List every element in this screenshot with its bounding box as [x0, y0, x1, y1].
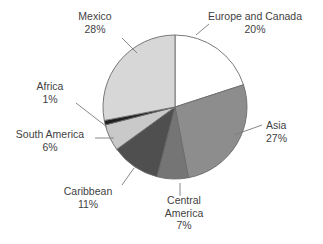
slice-label-south-america-name: South America — [8, 128, 92, 141]
slice-label-asia: Asia 27% — [266, 119, 310, 144]
slice-label-mexico: Mexico 28% — [62, 10, 128, 35]
pie-chart: Mexico 28% Europe and Canada 20% Asia 27… — [0, 0, 323, 244]
slice-label-europe-and-canada-name: Europe and Canada — [196, 10, 314, 23]
slice-label-central-america-name-line2: America — [155, 207, 213, 220]
slice-label-mexico-value: 28% — [62, 23, 128, 36]
slice-label-europe-and-canada: Europe and Canada 20% — [196, 10, 314, 35]
slice-label-central-america-value: 7% — [155, 219, 213, 232]
pie-slices — [103, 35, 247, 179]
slice-label-caribbean-name: Caribbean — [57, 185, 119, 198]
leader-line-caribbean — [122, 168, 134, 185]
slice-label-caribbean: Caribbean 11% — [57, 185, 119, 210]
slice-label-central-america: Central America 7% — [155, 194, 213, 232]
slice-label-mexico-name: Mexico — [62, 10, 128, 23]
slice-label-south-america-value: 6% — [8, 141, 92, 154]
slice-label-africa-value: 1% — [26, 93, 74, 106]
slice-label-south-america: South America 6% — [8, 128, 92, 153]
slice-mexico[interactable] — [103, 35, 175, 120]
leader-line-africa — [76, 103, 107, 127]
slice-label-africa: Africa 1% — [26, 80, 74, 105]
slice-label-caribbean-value: 11% — [57, 198, 119, 211]
slice-label-africa-name: Africa — [26, 80, 74, 93]
slice-label-asia-value: 27% — [266, 132, 310, 145]
slice-label-asia-name: Asia — [266, 119, 310, 132]
slice-label-europe-and-canada-value: 20% — [196, 23, 314, 36]
slice-label-central-america-name-line1: Central — [155, 194, 213, 207]
